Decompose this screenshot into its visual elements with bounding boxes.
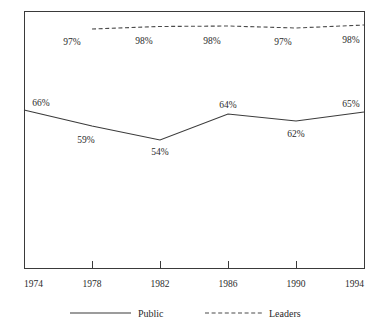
line-chart: 97% 98% 98% 97% 98% 66% 59% 54% 64% 62% … (0, 0, 388, 331)
value-label-public-1982: 54% (151, 147, 169, 157)
x-axis-label-1994: 1994 (345, 279, 364, 289)
value-label-leaders-1978: 97% (63, 37, 81, 47)
value-label-public-1978: 59% (77, 135, 95, 145)
value-label-public-1974: 66% (32, 98, 50, 108)
value-label-public-1994: 65% (342, 99, 360, 109)
series-line-public (24, 110, 364, 140)
value-label-leaders-1994: 98% (342, 35, 360, 45)
value-label-leaders-1986: 98% (203, 36, 221, 46)
legend-item-public[interactable]: Public (70, 308, 164, 319)
series-line-leaders (92, 25, 364, 29)
chart-legend: Public Leaders (70, 308, 301, 319)
x-axis-label-1978: 1978 (83, 279, 102, 289)
value-label-public-1986: 64% (219, 100, 237, 110)
public-value-labels: 66% 59% 54% 64% 62% 65% (32, 98, 360, 157)
x-axis-labels: 1974 1978 1982 1986 1990 1994 (24, 279, 364, 289)
chart-canvas: 97% 98% 98% 97% 98% 66% 59% 54% 64% 62% … (0, 0, 388, 331)
x-axis-label-1982: 1982 (151, 279, 170, 289)
x-axis-label-1986: 1986 (219, 279, 238, 289)
value-label-leaders-1982: 98% (135, 36, 153, 46)
legend-label-public: Public (138, 308, 164, 319)
x-axis-label-1990: 1990 (287, 279, 306, 289)
value-label-leaders-1990: 97% (274, 37, 292, 47)
value-label-public-1990: 62% (287, 129, 305, 139)
legend-label-leaders: Leaders (269, 308, 301, 319)
leaders-value-labels: 97% 98% 98% 97% 98% (63, 35, 360, 47)
plot-frame (25, 12, 365, 269)
x-axis-label-1974: 1974 (24, 279, 43, 289)
x-axis-ticks (93, 261, 297, 268)
legend-item-leaders[interactable]: Leaders (205, 308, 301, 319)
